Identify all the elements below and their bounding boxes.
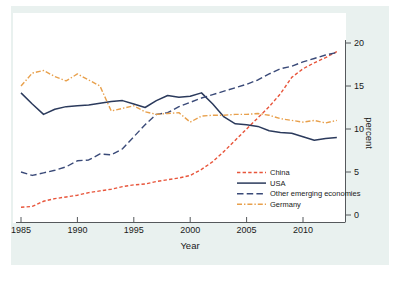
- y-tick-label: 5: [354, 167, 359, 177]
- series-line-other-emerging-economies: [21, 52, 337, 175]
- x-tick-label: 2005: [237, 225, 257, 235]
- series-line-china: [21, 52, 337, 208]
- x-tick-label: 1985: [11, 225, 31, 235]
- x-tick-label: 2000: [180, 225, 200, 235]
- data-series-group: [21, 52, 337, 208]
- y-tick-label: 10: [354, 124, 364, 134]
- x-tick-marks: [21, 217, 303, 223]
- y-tick-label: 0: [354, 210, 359, 220]
- legend-label-other-emerging-economies: Other emerging economies: [270, 189, 360, 198]
- chart-figure: 198519901995200020052010 05101520 Year p…: [0, 0, 393, 281]
- legend-label-china: China: [270, 168, 290, 177]
- x-tick-label: 1990: [67, 225, 87, 235]
- y-tick-label: 15: [354, 81, 364, 91]
- series-line-usa: [21, 93, 337, 140]
- legend-label-usa: USA: [270, 179, 285, 188]
- chart-canvas: [0, 0, 393, 281]
- legend-label-germany: Germany: [270, 200, 301, 209]
- y-tick-label: 20: [354, 38, 364, 48]
- x-tick-label: 1995: [124, 225, 144, 235]
- x-tick-label: 2010: [293, 225, 313, 235]
- legend-sample-lines: [237, 173, 266, 205]
- x-axis-title: Year: [180, 240, 199, 251]
- y-axis-title: percent: [364, 117, 375, 149]
